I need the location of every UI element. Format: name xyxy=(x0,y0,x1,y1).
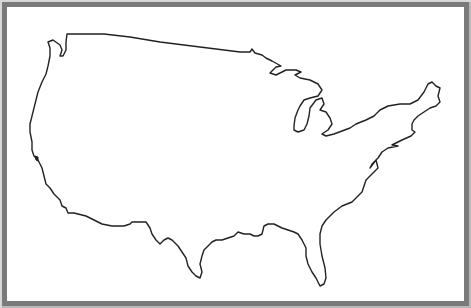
us-border-outline xyxy=(30,34,440,286)
us-outline-map xyxy=(0,0,471,308)
sf-bay-detail xyxy=(35,156,38,161)
